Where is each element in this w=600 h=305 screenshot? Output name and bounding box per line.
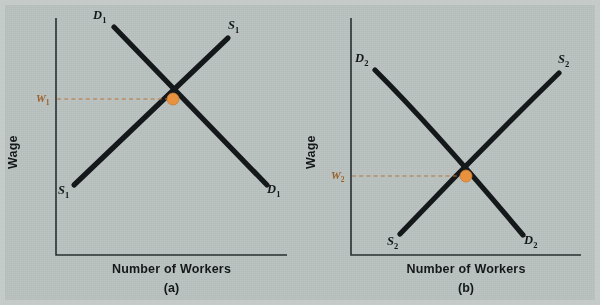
panel-a-supply-top-label: S1	[228, 18, 239, 35]
panel-a-supply-bottom-letter: S	[58, 183, 65, 197]
panel-b-wage-sub: 2	[341, 175, 345, 184]
panel-a-demand-top-label: D1	[93, 8, 107, 25]
panel-a-demand-bottom-sub: 1	[276, 189, 280, 199]
panel-b-x-axis-title: Number of Workers	[351, 262, 581, 276]
panel-a-equilibrium-dot	[167, 93, 179, 105]
panel-b-plot	[300, 0, 600, 305]
figure-root: D1 S1 S1 D1 W1 Wage Number of Workers (a…	[0, 0, 600, 305]
panel-b-demand-bottom-letter: D	[524, 233, 533, 247]
panel-b-demand-bottom-label: D2	[524, 233, 538, 250]
panel-a-wage-tick-label: W1	[36, 92, 50, 107]
panel-a-wage-sub: 1	[46, 98, 50, 107]
panel-b-supply-bottom-letter: S	[387, 234, 394, 248]
panel-b-supply-bottom-label: S2	[387, 234, 398, 251]
panel-a-axes	[56, 18, 287, 255]
panel-b-supply-bottom-sub: 2	[394, 241, 398, 251]
panel-a-demand-bottom-label: D1	[267, 182, 281, 199]
panel-a-supply-bottom-label: S1	[58, 183, 69, 200]
panel-b: D2 S2 S2 D2 W2 Wage Number of Workers (b…	[300, 0, 600, 305]
panel-a-demand-curve	[114, 27, 267, 185]
panel-b-demand-top-sub: 2	[364, 58, 368, 68]
panel-a-demand-top-letter: D	[93, 8, 102, 22]
panel-b-equilibrium-dot	[460, 170, 472, 182]
panel-a-plot	[0, 0, 300, 305]
panel-a-y-axis-title: Wage	[6, 135, 20, 169]
panel-b-wage-letter: W	[331, 169, 341, 181]
panel-b-supply-top-label: S2	[558, 52, 569, 69]
panel-a-supply-top-letter: S	[228, 18, 235, 32]
panel-a-supply-top-sub: 1	[235, 25, 239, 35]
panel-b-caption: (b)	[351, 281, 581, 295]
panel-b-y-axis-title: Wage	[304, 135, 318, 169]
panel-a-supply-curve	[74, 38, 228, 185]
panel-b-demand-top-letter: D	[355, 51, 364, 65]
panel-b-supply-top-sub: 2	[565, 59, 569, 69]
panel-b-wage-tick-label: W2	[331, 169, 345, 184]
panel-a-demand-bottom-letter: D	[267, 182, 276, 196]
panel-a-demand-top-sub: 1	[102, 15, 106, 25]
panel-b-supply-top-letter: S	[558, 52, 565, 66]
panel-b-demand-top-label: D2	[355, 51, 369, 68]
panel-a-supply-bottom-sub: 1	[65, 190, 69, 200]
panel-a-x-axis-title: Number of Workers	[56, 262, 287, 276]
panel-b-supply-curve	[400, 73, 559, 234]
panel-b-axes	[351, 18, 581, 255]
panel-a: D1 S1 S1 D1 W1 Wage Number of Workers (a…	[0, 0, 300, 305]
panel-a-caption: (a)	[56, 281, 287, 295]
panel-b-demand-bottom-sub: 2	[533, 240, 537, 250]
panel-a-wage-letter: W	[36, 92, 46, 104]
panel-b-demand-curve	[375, 70, 523, 235]
